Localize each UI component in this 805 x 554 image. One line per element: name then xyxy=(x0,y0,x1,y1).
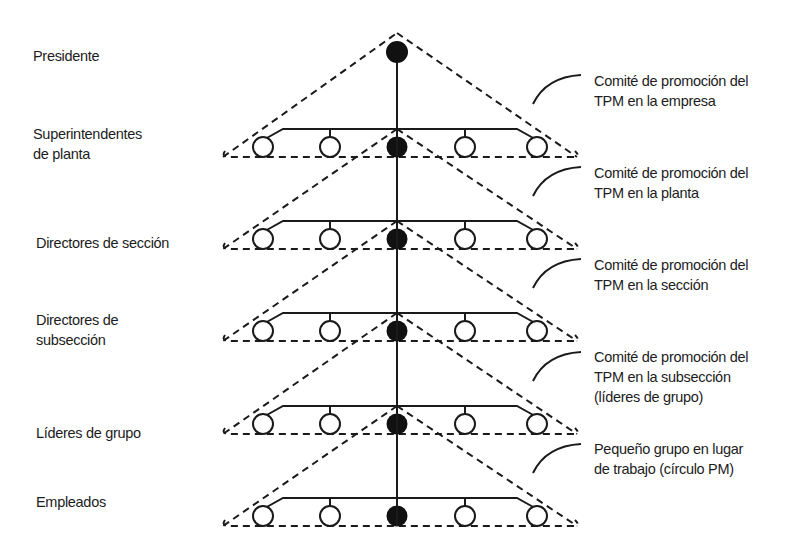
level-label-empleados: Empleados xyxy=(36,492,106,512)
president-filled-circle-icon xyxy=(386,41,408,63)
committee-leader-line xyxy=(533,352,581,381)
committee-boundary-left xyxy=(223,406,397,526)
committee-boundary-left xyxy=(223,313,397,434)
level-label-presidente: Presidente xyxy=(33,46,99,66)
member-open-circle-icon xyxy=(455,229,475,249)
member-open-circle-icon xyxy=(527,321,547,341)
top-committee-triangle-right xyxy=(397,33,577,157)
member-open-circle-icon xyxy=(320,229,340,249)
committee-label-planta: Comité de promoción del TPM en la planta xyxy=(594,163,794,203)
member-open-circle-icon xyxy=(527,506,547,526)
committee-leader-line xyxy=(533,259,581,288)
member-open-circle-icon xyxy=(527,414,547,434)
member-open-circle-icon xyxy=(320,137,340,157)
member-open-circle-icon xyxy=(455,414,475,434)
member-open-circle-icon xyxy=(320,414,340,434)
level-label-directores-subseccion: Directores de subsección xyxy=(36,310,118,350)
tier-group-1 xyxy=(223,75,581,249)
member-open-circle-icon xyxy=(253,229,273,249)
tier-group-5 xyxy=(224,444,581,527)
level-label-directores-seccion: Directores de sección xyxy=(36,233,169,253)
member-open-circle-icon xyxy=(253,414,273,434)
committee-leader-line xyxy=(533,444,581,473)
member-open-circle-icon xyxy=(527,137,547,157)
level-label-superintendentes: Superintendentes de planta xyxy=(33,124,142,164)
committee-leader-line xyxy=(533,167,581,196)
member-open-circle-icon xyxy=(320,321,340,341)
committee-boundary-left xyxy=(223,221,397,341)
member-open-circle-icon xyxy=(320,506,340,526)
member-open-circle-icon xyxy=(253,321,273,341)
committee-label-seccion: Comité de promoción del TPM en la secció… xyxy=(594,255,794,295)
member-open-circle-icon xyxy=(527,229,547,249)
member-open-circle-icon xyxy=(253,137,273,157)
tier-group-3 xyxy=(223,259,581,434)
member-open-circle-icon xyxy=(455,506,475,526)
committee-boundary-right xyxy=(397,406,577,526)
tier-group-2 xyxy=(223,167,581,341)
committee-leader-line xyxy=(533,75,581,104)
level-label-lideres-grupo: Líderes de grupo xyxy=(36,423,141,443)
member-open-circle-icon xyxy=(455,137,475,157)
committee-label-grupo-pm: Pequeño grupo en lugar de trabajo (círcu… xyxy=(594,439,794,479)
committee-boundary-right xyxy=(397,221,577,341)
top-committee-triangle-left xyxy=(223,33,397,157)
tier-group-4 xyxy=(223,352,581,526)
committee-boundary-left xyxy=(223,129,397,249)
committee-boundary-right xyxy=(397,313,577,434)
committee-label-subseccion: Comité de promoción del TPM en la subsec… xyxy=(594,347,794,407)
member-open-circle-icon xyxy=(253,506,273,526)
committee-boundary-right xyxy=(397,129,577,249)
member-open-circle-icon xyxy=(455,321,475,341)
committee-label-empresa: Comité de promoción del TPM en la empres… xyxy=(594,71,794,111)
